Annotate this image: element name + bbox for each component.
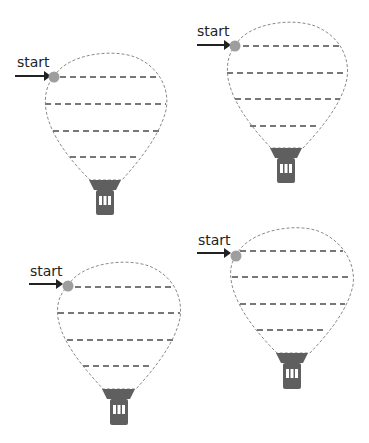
basket-icon: [102, 389, 135, 425]
balloon-4: start: [197, 228, 353, 389]
trace-lines[interactable]: [232, 251, 352, 330]
basket-icon: [89, 180, 121, 215]
start-dot[interactable]: [231, 251, 242, 262]
start-dot[interactable]: [63, 281, 74, 292]
trace-lines[interactable]: [227, 46, 347, 126]
balloon-outline: [227, 22, 347, 148]
start-dot[interactable]: [49, 72, 60, 83]
start-label: start: [17, 54, 50, 70]
arrow-icon: [197, 40, 231, 50]
trace-lines[interactable]: [58, 287, 180, 366]
balloon-outline: [45, 53, 166, 180]
basket-icon: [276, 353, 308, 389]
arrow-icon: [15, 71, 51, 81]
balloon-2: start: [197, 22, 348, 183]
balloon-outline: [231, 228, 354, 353]
start-dot[interactable]: [230, 41, 241, 52]
arrow-icon: [29, 279, 63, 289]
start-label: start: [30, 263, 63, 279]
balloon-outline: [57, 262, 180, 389]
start-label: start: [197, 23, 230, 39]
balloon-1: start: [15, 53, 167, 215]
start-label: start: [198, 232, 231, 248]
balloon-3: start: [29, 262, 181, 425]
basket-icon: [270, 148, 302, 183]
worksheet-canvas: start start: [0, 0, 369, 443]
trace-lines[interactable]: [45, 77, 166, 157]
arrow-icon: [197, 248, 231, 258]
